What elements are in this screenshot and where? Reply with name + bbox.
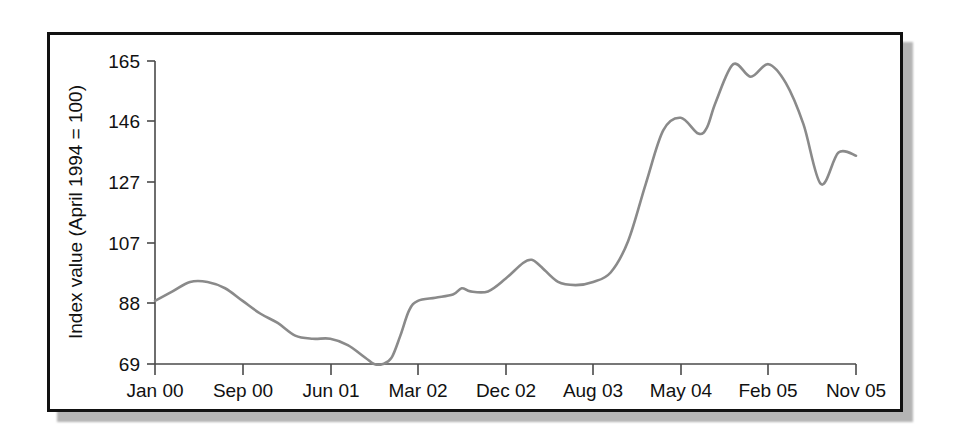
x-axis-ticks — [155, 364, 856, 375]
x-tick-label-jun-01: Jun 01 — [302, 380, 359, 401]
x-tick-label-sep-00: Sep 00 — [213, 380, 273, 401]
figure-page: 165 146 127 107 88 69 — [0, 0, 959, 448]
x-tick-label-mar-02: Mar 02 — [388, 380, 447, 401]
x-tick-label-nov-05: Nov 05 — [826, 380, 886, 401]
x-tick-label-aug-03: Aug 03 — [563, 380, 623, 401]
y-tick-label-165: 165 — [108, 51, 140, 72]
y-axis-ticks — [147, 61, 155, 364]
y-tick-label-107: 107 — [108, 233, 140, 254]
x-tick-label-dec-02: Dec 02 — [476, 380, 536, 401]
y-tick-label-146: 146 — [108, 111, 140, 132]
y-tick-label-127: 127 — [108, 172, 140, 193]
line-chart: 165 146 127 107 88 69 — [50, 35, 900, 409]
series-line-index-value — [155, 63, 856, 364]
figure-frame: 165 146 127 107 88 69 — [47, 32, 903, 412]
x-tick-label-feb-05: Feb 05 — [738, 380, 797, 401]
y-axis-title: Index value (April 1994 = 100) — [65, 85, 86, 339]
x-tick-label-may-04: May 04 — [650, 380, 713, 401]
chart-svg: 165 146 127 107 88 69 — [50, 35, 900, 409]
x-tick-label-jan-00: Jan 00 — [126, 380, 183, 401]
y-tick-label-69: 69 — [119, 354, 140, 375]
y-tick-label-88: 88 — [119, 293, 140, 314]
